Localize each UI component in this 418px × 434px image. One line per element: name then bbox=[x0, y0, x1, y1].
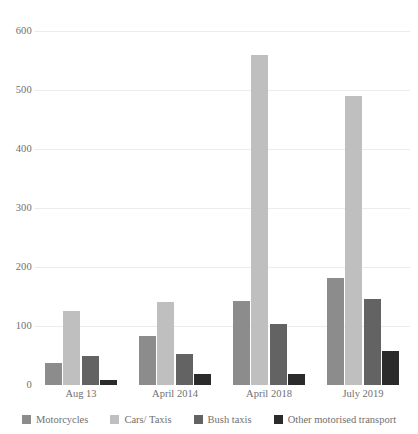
y-axis-tick-label: 100 bbox=[2, 321, 32, 332]
x-axis-tick-label: April 2014 bbox=[128, 388, 222, 400]
legend-swatch bbox=[194, 415, 203, 424]
legend-item: Motorcycles bbox=[22, 414, 89, 425]
x-axis-tick-label: Aug 13 bbox=[34, 388, 128, 400]
bar-group bbox=[128, 31, 222, 385]
bar bbox=[100, 380, 117, 385]
bar bbox=[270, 324, 287, 385]
x-axis-tick-label: April 2018 bbox=[222, 388, 316, 400]
y-axis: 0100200300400500600 bbox=[0, 31, 32, 385]
bar bbox=[157, 302, 174, 385]
bar bbox=[139, 336, 156, 385]
y-axis-tick-label: 0 bbox=[2, 380, 32, 391]
legend-swatch bbox=[110, 415, 119, 424]
bar-chart: 0100200300400500600 MotorcyclesCars/ Tax… bbox=[0, 0, 418, 434]
y-axis-tick-label: 600 bbox=[2, 26, 32, 37]
bar bbox=[194, 374, 211, 385]
bar-group bbox=[222, 31, 316, 385]
bar bbox=[82, 356, 99, 386]
plot-area bbox=[34, 31, 410, 385]
y-axis-tick-label: 400 bbox=[2, 144, 32, 155]
bar bbox=[63, 311, 80, 385]
legend-item: Bush taxis bbox=[194, 414, 252, 425]
legend-label: Other motorised transport bbox=[288, 414, 396, 425]
y-axis-tick-label: 200 bbox=[2, 262, 32, 273]
bar bbox=[364, 299, 381, 385]
bar bbox=[345, 96, 362, 385]
legend-label: Bush taxis bbox=[208, 414, 252, 425]
chart-legend: MotorcyclesCars/ TaxisBush taxisOther mo… bbox=[0, 409, 418, 429]
y-axis-tick-label: 500 bbox=[2, 85, 32, 96]
bar bbox=[288, 374, 305, 385]
y-axis-tick-label: 300 bbox=[2, 203, 32, 214]
legend-label: Cars/ Taxis bbox=[124, 414, 171, 425]
legend-item: Cars/ Taxis bbox=[110, 414, 171, 425]
bar bbox=[233, 301, 250, 385]
bar bbox=[176, 354, 193, 385]
bar bbox=[251, 55, 268, 385]
x-axis-tick-label: July 2019 bbox=[316, 388, 410, 400]
legend-swatch bbox=[274, 415, 283, 424]
bar bbox=[327, 278, 344, 385]
bar bbox=[45, 363, 62, 385]
legend-swatch bbox=[22, 415, 31, 424]
legend-label: Motorcycles bbox=[36, 414, 89, 425]
bar bbox=[382, 351, 399, 385]
bar-group bbox=[34, 31, 128, 385]
legend-item: Other motorised transport bbox=[274, 414, 396, 425]
bar-group bbox=[316, 31, 410, 385]
